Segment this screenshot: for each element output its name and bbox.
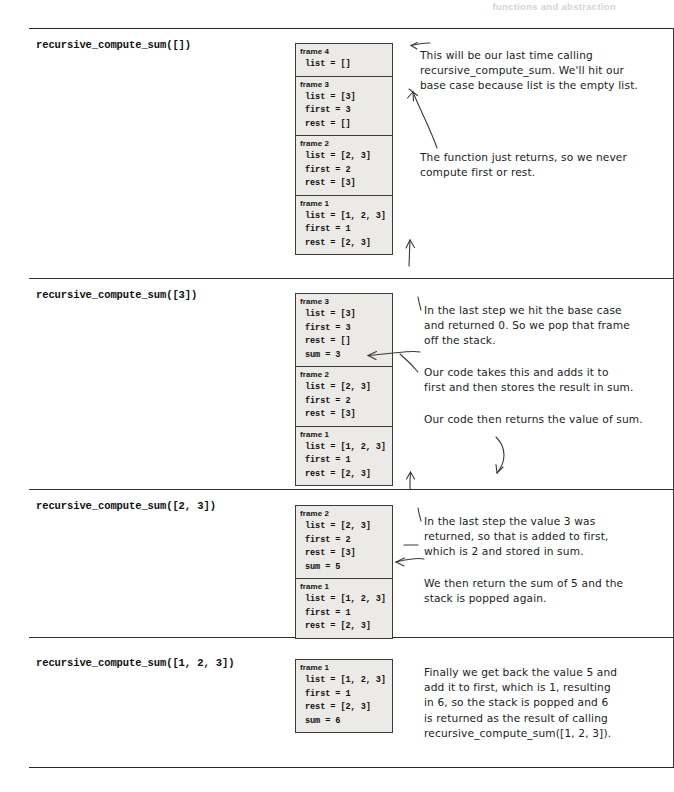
frame-title: frame 1	[296, 198, 392, 210]
frame-row: rest = [3]	[296, 177, 392, 191]
frame-row: list = [1, 2, 3]	[296, 210, 392, 224]
annotation-dash-2b-icon	[400, 354, 418, 372]
frame-row: rest = [2, 3]	[296, 701, 392, 715]
frame-row: list = [3]	[296, 91, 392, 105]
frame-row: list = [2, 3]	[296, 150, 392, 164]
frame-row: sum = 5	[296, 561, 392, 575]
annotation-tick-2a-icon	[418, 297, 421, 310]
stack-frame: frame 3 list = [3] first = 3 rest = []	[296, 77, 392, 137]
frame-row: first = 3	[296, 322, 392, 336]
stack-frame: frame 1 list = [1, 2, 3] first = 1 rest …	[296, 427, 392, 486]
stack-frame: frame 3 list = [3] first = 3 rest = [] s…	[296, 294, 392, 367]
frame-title: frame 2	[296, 369, 392, 381]
stack-frame: frame 2 list = [2, 3] first = 2 rest = […	[296, 506, 392, 579]
frame-row: rest = [3]	[296, 408, 392, 422]
frame-row: first = 1	[296, 223, 392, 237]
frame-row: first = 1	[296, 454, 392, 468]
frame-row: rest = [2, 3]	[296, 237, 392, 251]
frame-title: frame 1	[296, 662, 392, 674]
arrow-to-frame3-icon	[408, 89, 438, 148]
frame-title: frame 3	[296, 296, 392, 308]
frame-row: first = 2	[296, 164, 392, 178]
frame-row: list = [1, 2, 3]	[296, 674, 392, 688]
stack-frame: frame 4 list = []	[296, 44, 392, 77]
arrow-up-stack-section-1-icon	[406, 240, 415, 266]
annotation-tick-3a-icon	[418, 508, 421, 521]
call-stack-section-2: frame 3 list = [3] first = 3 rest = [] s…	[295, 293, 393, 486]
frame-row: rest = [3]	[296, 547, 392, 561]
annotation-note-3a: In the last step the value 3 was returne…	[424, 514, 668, 560]
running-header: functions and abstraction	[492, 1, 616, 12]
frame-row: sum = 6	[296, 715, 392, 729]
annotation-note-1b: The function just returns, so we never c…	[420, 150, 660, 180]
annotation-note-2c: Our code then returns the value of sum.	[424, 412, 668, 427]
frame-row: first = 2	[296, 534, 392, 548]
frame-title: frame 2	[296, 508, 392, 520]
annotation-note-3b: We then return the sum of 5 and the stac…	[424, 576, 668, 606]
frame-row: list = []	[296, 58, 392, 72]
frame-row: first = 3	[296, 104, 392, 118]
call-label-section-1: recursive_compute_sum([])	[36, 39, 191, 51]
arrow-up-stack-section-2-icon	[407, 472, 415, 489]
frame-title: frame 3	[296, 79, 392, 91]
frame-row: first = 1	[296, 688, 392, 702]
annotation-note-2a: In the last step we hit the base case an…	[424, 303, 668, 349]
section-divider-2	[29, 489, 674, 490]
frame-row: rest = []	[296, 335, 392, 349]
call-stack-section-3: frame 2 list = [2, 3] first = 2 rest = […	[295, 505, 393, 639]
frame-row: rest = [2, 3]	[296, 468, 392, 482]
stack-frame: frame 1 list = [1, 2, 3] first = 1 rest …	[296, 196, 392, 255]
frame-row: list = [1, 2, 3]	[296, 593, 392, 607]
frame-row: list = [3]	[296, 308, 392, 322]
frame-row: first = 1	[296, 607, 392, 621]
stack-frame: frame 1 list = [1, 2, 3] first = 1 rest …	[296, 579, 392, 638]
call-label-section-4: recursive_compute_sum([1, 2, 3])	[36, 657, 234, 669]
annotation-note-1a: This will be our last time calling recur…	[420, 48, 660, 94]
stack-frame: frame 1 list = [1, 2, 3] first = 1 rest …	[296, 660, 392, 732]
call-stack-section-1: frame 4 list = [] frame 3 list = [3] fir…	[295, 43, 393, 255]
frame-row: rest = []	[296, 118, 392, 132]
section-divider-1	[29, 278, 674, 279]
frame-row: rest = [2, 3]	[296, 620, 392, 634]
frame-title: frame 4	[296, 46, 392, 58]
frame-row: list = [2, 3]	[296, 381, 392, 395]
stack-frame: frame 2 list = [2, 3] first = 2 rest = […	[296, 136, 392, 196]
arrow-down-section-2-icon	[496, 437, 504, 473]
frame-row: first = 2	[296, 395, 392, 409]
annotation-note-2b: Our code takes this and adds it to first…	[424, 365, 668, 395]
stack-frame: frame 2 list = [2, 3] first = 2 rest = […	[296, 367, 392, 427]
frame-title: frame 2	[296, 138, 392, 150]
frame-row: list = [2, 3]	[296, 520, 392, 534]
annotation-note-4a: Finally we get back the value 5 and add …	[424, 665, 668, 741]
frame-title: frame 1	[296, 581, 392, 593]
frame-title: frame 1	[296, 429, 392, 441]
frame-row: sum = 3	[296, 349, 392, 363]
call-label-section-3: recursive_compute_sum([2, 3])	[36, 500, 216, 512]
call-stack-section-4: frame 1 list = [1, 2, 3] first = 1 rest …	[295, 659, 393, 733]
frame-row: list = [1, 2, 3]	[296, 441, 392, 455]
arrow-to-sum5-icon	[396, 558, 424, 566]
call-label-section-2: recursive_compute_sum([3])	[36, 289, 197, 301]
